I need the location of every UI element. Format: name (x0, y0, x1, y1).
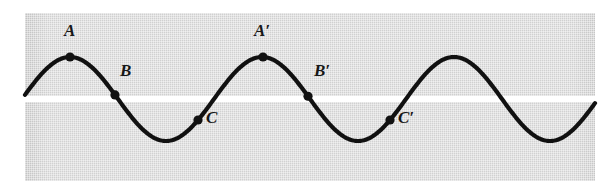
marked-point-A-prime (258, 52, 267, 61)
point-label-A: A (64, 22, 75, 39)
point-label-A-prime: A′ (254, 22, 270, 39)
wave-figure: A B C A′ B′ C′ (0, 0, 612, 190)
marked-point-B-prime (303, 92, 312, 101)
marked-point-C-prime (385, 115, 394, 124)
marked-point-C (193, 115, 202, 124)
marked-points-group (65, 52, 394, 124)
point-label-C-prime: C′ (398, 109, 414, 126)
marked-point-B (110, 90, 119, 99)
point-label-C: C (206, 109, 217, 126)
point-label-B: B (120, 62, 131, 79)
marked-point-A (65, 52, 74, 61)
wave-plot (0, 0, 612, 190)
point-label-B-prime: B′ (314, 62, 330, 79)
